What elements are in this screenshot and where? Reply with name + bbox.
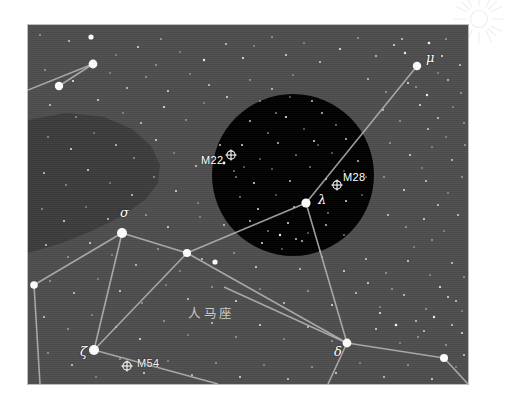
field-star (443, 230, 444, 231)
constellation-line (347, 343, 444, 358)
field-star (145, 76, 147, 78)
field-star (393, 44, 395, 46)
named-star-delta (343, 339, 352, 348)
field-star (441, 55, 443, 57)
field-star (93, 132, 94, 133)
field-star (201, 258, 203, 260)
field-star (311, 366, 313, 368)
field-star (167, 360, 168, 361)
field-star (233, 252, 235, 254)
bright-star (212, 259, 217, 264)
field-star (343, 270, 345, 272)
field-star (359, 362, 360, 363)
field-star (295, 154, 297, 156)
field-star (179, 51, 180, 52)
field-star (445, 136, 446, 137)
field-star (109, 72, 110, 73)
field-star (259, 158, 260, 159)
field-star (463, 354, 465, 356)
field-star (275, 194, 276, 195)
field-star (167, 226, 169, 228)
field-star (335, 372, 337, 374)
field-star (313, 140, 315, 142)
field-star (63, 220, 65, 222)
field-star (427, 128, 429, 130)
field-star (379, 312, 381, 314)
bright-star (89, 60, 98, 69)
field-star (375, 328, 377, 330)
field-star (331, 304, 333, 306)
field-star (455, 300, 457, 302)
field-star (235, 300, 237, 302)
named-star-lambda (301, 198, 310, 207)
field-star (285, 116, 287, 118)
field-star (97, 278, 98, 279)
field-star (431, 378, 433, 380)
field-star (325, 224, 327, 226)
star-chart-panel[interactable]: μσλζδM22M28M54 人马座 (28, 25, 468, 384)
field-star (331, 340, 333, 342)
field-star (73, 292, 75, 294)
field-star (49, 280, 51, 282)
field-star (43, 316, 45, 318)
field-star (155, 64, 157, 66)
field-star (357, 160, 359, 162)
field-star (365, 258, 367, 260)
named-star-zeta (89, 345, 99, 355)
field-star (301, 240, 303, 242)
field-star (404, 52, 406, 54)
field-star (415, 320, 417, 322)
field-star (119, 358, 121, 360)
field-star (235, 176, 237, 178)
field-star (225, 43, 227, 45)
field-star (253, 182, 255, 184)
bright-star (30, 281, 38, 289)
field-star (87, 169, 89, 171)
field-star (345, 200, 347, 202)
field-star (271, 88, 273, 90)
field-star (292, 74, 293, 75)
field-star (107, 218, 109, 220)
field-star (289, 180, 291, 182)
field-star (421, 167, 422, 168)
field-star (339, 48, 341, 50)
field-star (249, 79, 251, 81)
field-star (242, 57, 244, 59)
field-star (155, 139, 157, 141)
constellation-line (224, 287, 347, 343)
field-star (235, 336, 237, 338)
field-star (70, 148, 72, 150)
field-star (460, 92, 462, 94)
field-star (321, 112, 323, 114)
field-star (403, 189, 405, 191)
field-star (153, 176, 155, 178)
field-star (413, 246, 414, 247)
field-star (303, 128, 304, 129)
field-star (267, 230, 269, 232)
field-star (343, 234, 345, 236)
field-star (139, 338, 141, 340)
field-star (331, 152, 332, 153)
field-star (241, 144, 243, 146)
field-star (409, 154, 411, 156)
field-star (289, 96, 290, 97)
field-star (195, 165, 197, 167)
field-star (197, 202, 198, 203)
field-star (407, 364, 409, 366)
constellation-line (94, 253, 187, 350)
field-star (239, 376, 241, 378)
field-star (319, 61, 321, 63)
field-star (167, 90, 169, 92)
field-star (191, 374, 193, 376)
field-star (425, 308, 427, 310)
field-star (395, 324, 398, 327)
bright-star (55, 82, 63, 90)
field-star (365, 176, 367, 178)
field-star (75, 116, 77, 118)
field-star (165, 284, 166, 285)
field-star (283, 302, 285, 304)
field-star (437, 204, 439, 206)
field-star (429, 274, 430, 275)
field-star (447, 79, 449, 81)
field-star (173, 152, 174, 153)
